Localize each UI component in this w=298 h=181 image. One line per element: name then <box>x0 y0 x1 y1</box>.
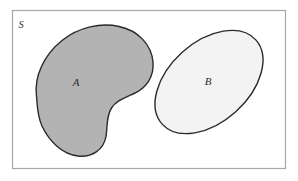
set-b-label: B <box>205 75 212 87</box>
universal-set-label: S <box>18 19 24 30</box>
venn-diagram-svg: S A B <box>0 0 298 181</box>
set-diagram-container: S A B <box>0 0 298 181</box>
set-a-label: A <box>72 76 80 88</box>
